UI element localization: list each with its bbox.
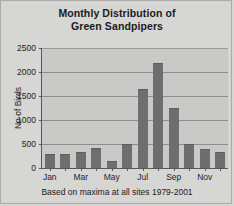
plot-area: No of Birds 05001000150020002500 JanMarM… — [41, 48, 228, 169]
gridline — [42, 144, 228, 145]
x-tick-mark — [143, 168, 144, 171]
chart-title-line-1: Monthly Distribution of — [1, 7, 233, 20]
bar — [169, 108, 179, 168]
x-tick-label: Sep — [159, 172, 189, 182]
chart-title-line-2: Green Sandpipers — [1, 20, 233, 33]
x-tick-label: May — [97, 172, 127, 182]
y-tick-mark — [39, 48, 42, 49]
y-tick-label: 1500 — [2, 91, 36, 101]
x-tick-label: Mar — [66, 172, 96, 182]
gridline — [42, 120, 228, 121]
y-tick-mark — [39, 72, 42, 73]
x-tick-mark — [220, 168, 221, 171]
gridline — [42, 72, 228, 73]
y-tick-label: 1000 — [2, 115, 36, 125]
bar — [138, 89, 148, 168]
x-tick-label: Jan — [35, 172, 65, 182]
bar — [91, 148, 101, 168]
bar — [215, 152, 225, 168]
y-tick-mark — [39, 96, 42, 97]
bar — [76, 152, 86, 168]
bar — [153, 63, 163, 168]
gridline — [42, 48, 228, 49]
y-tick-mark — [39, 168, 42, 169]
y-tick-mark — [39, 144, 42, 145]
chart-title: Monthly Distribution of Green Sandpipers — [1, 7, 233, 32]
x-tick-mark — [50, 168, 51, 171]
x-tick-label: Nov — [190, 172, 220, 182]
chart-caption: Based on maxima at all sites 1979-2001 — [1, 187, 233, 197]
gridline — [42, 96, 228, 97]
y-tick-label: 500 — [2, 139, 36, 149]
x-tick-mark — [96, 168, 97, 171]
x-tick-mark — [127, 168, 128, 171]
bar — [184, 144, 194, 168]
x-tick-mark — [174, 168, 175, 171]
x-tick-label: Jul — [128, 172, 158, 182]
y-tick-label: 2000 — [2, 67, 36, 77]
x-tick-mark — [189, 168, 190, 171]
x-tick-mark — [112, 168, 113, 171]
bar — [200, 149, 210, 168]
y-tick-label: 2500 — [2, 43, 36, 53]
bar — [107, 161, 117, 168]
chart-figure: Monthly Distribution of Green Sandpipers… — [0, 0, 232, 204]
x-tick-mark — [158, 168, 159, 171]
x-tick-mark — [65, 168, 66, 171]
y-tick-mark — [39, 120, 42, 121]
bar — [60, 154, 70, 168]
x-tick-mark — [205, 168, 206, 171]
bar — [122, 144, 132, 168]
y-tick-label: 0 — [2, 163, 36, 173]
bar — [45, 154, 55, 168]
x-tick-mark — [81, 168, 82, 171]
